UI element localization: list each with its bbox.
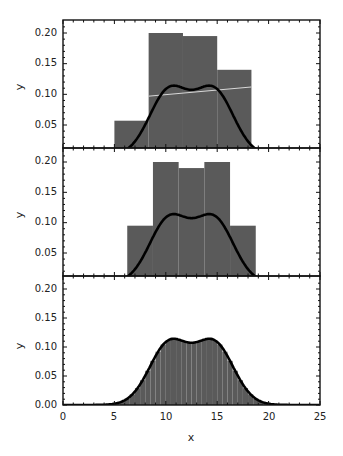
xtick-label: 10: [160, 411, 173, 422]
histogram-bar: [217, 70, 251, 176]
histogram-bar: [238, 380, 243, 425]
top-ytick-label: 0.05: [35, 119, 57, 130]
histogram-bar: [125, 399, 130, 425]
histogram-bar: [153, 162, 179, 303]
xtick-label: 25: [314, 411, 327, 422]
histogram-bar: [104, 405, 109, 425]
bot-ytick-label: 0.15: [35, 312, 57, 323]
histogram-bar: [179, 168, 205, 303]
histogram-bar: [230, 226, 256, 304]
mid-ytick-label: 0.10: [35, 216, 57, 227]
xtick-label: 5: [111, 411, 117, 422]
bot-ytick-label: 0.00: [35, 399, 57, 410]
middle-panel: [63, 148, 320, 303]
histogram-bar: [145, 371, 150, 425]
middle-ylabel: y: [13, 211, 26, 218]
bottom-panel: [63, 276, 320, 425]
histogram-bar: [227, 361, 232, 425]
xtick-label: 20: [263, 411, 276, 422]
bot-ytick-label: 0.20: [35, 283, 57, 294]
top-ytick-label: 0.20: [35, 27, 57, 38]
top-ytick-label: 0.15: [35, 57, 57, 68]
histogram-bar: [202, 340, 207, 425]
histogram-bar: [197, 341, 202, 425]
mid-ytick-label: 0.15: [35, 186, 57, 197]
top-panel: [63, 20, 320, 176]
histogram-bar: [127, 226, 153, 304]
histogram-bar: [135, 388, 140, 425]
histogram-bar: [176, 340, 181, 425]
xtick-label: 15: [211, 411, 224, 422]
histogram-bar: [183, 36, 217, 176]
mid-ytick-label: 0.05: [35, 247, 57, 258]
histogram-bar: [181, 341, 186, 425]
top-ylabel: y: [13, 83, 26, 90]
bot-ytick-label: 0.05: [35, 370, 57, 381]
histogram-bar: [130, 394, 135, 425]
mid-ytick-label: 0.20: [35, 155, 57, 166]
bot-ytick-label: 0.10: [35, 341, 57, 352]
histogram-bar: [192, 343, 197, 425]
histogram-bar: [248, 394, 253, 425]
xtick-label: 0: [60, 411, 66, 422]
histogram-bar: [140, 380, 145, 425]
histogram-bar: [150, 361, 155, 425]
histogram-bar: [186, 343, 191, 425]
histogram-bar: [149, 33, 183, 176]
top-ytick-label: 0.10: [35, 88, 57, 99]
xlabel: x: [188, 431, 195, 444]
bottom-ylabel: y: [13, 342, 26, 349]
histogram-figure: y y y 0.20 0.15 0.10 0.05 0.20 0.15 0.10…: [0, 0, 343, 456]
histogram-bar: [243, 388, 248, 425]
histogram-bar: [204, 162, 230, 303]
histogram-bar: [233, 371, 238, 425]
histogram-bar: [253, 399, 258, 425]
